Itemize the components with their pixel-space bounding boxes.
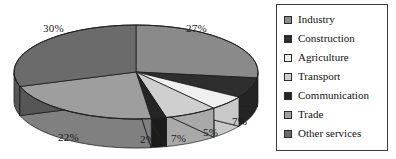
legend-swatch-icon	[284, 92, 292, 100]
slice-label-construction: 7%	[232, 115, 247, 127]
legend-item[interactable]: Other services	[284, 124, 387, 143]
legend-item-label: Transport	[298, 71, 340, 82]
slice-label-industry: 27%	[186, 22, 207, 34]
legend-item-label: Construction	[298, 33, 355, 44]
slice-label-other-services: 30%	[43, 22, 64, 34]
legend-swatch-icon	[284, 73, 292, 81]
legend-swatch-icon	[284, 111, 292, 119]
legend: IndustryConstructionAgricultureTransport…	[276, 4, 388, 151]
slice-label-agriculture: 5%	[203, 126, 218, 138]
pie-chart-area: 30% 27% 22% 2% 7% 5% 7%	[0, 0, 272, 159]
legend-item[interactable]: Industry	[284, 10, 387, 29]
legend-item[interactable]: Communication	[284, 86, 387, 105]
legend-swatch-icon	[284, 130, 292, 138]
legend-item-label: Trade	[298, 109, 323, 120]
legend-item-label: Agriculture	[298, 52, 349, 63]
legend-item-label: Communication	[298, 90, 369, 101]
legend-item[interactable]: Agriculture	[284, 48, 387, 67]
slice-label-transport: 7%	[171, 132, 186, 144]
legend-item-label: Industry	[298, 14, 335, 25]
legend-swatch-icon	[284, 35, 292, 43]
legend-swatch-icon	[284, 54, 292, 62]
slice-label-trade: 22%	[58, 131, 79, 143]
legend-item[interactable]: Trade	[284, 105, 387, 124]
pie-chart-graphic	[0, 0, 272, 159]
pie-chart-figure: 30% 27% 22% 2% 7% 5% 7% IndustryConstruc…	[0, 0, 396, 159]
legend-item-label: Other services	[298, 128, 361, 139]
legend-swatch-icon	[284, 16, 292, 24]
slice-label-communication: 2%	[140, 133, 155, 145]
legend-item[interactable]: Construction	[284, 29, 387, 48]
legend-item[interactable]: Transport	[284, 67, 387, 86]
